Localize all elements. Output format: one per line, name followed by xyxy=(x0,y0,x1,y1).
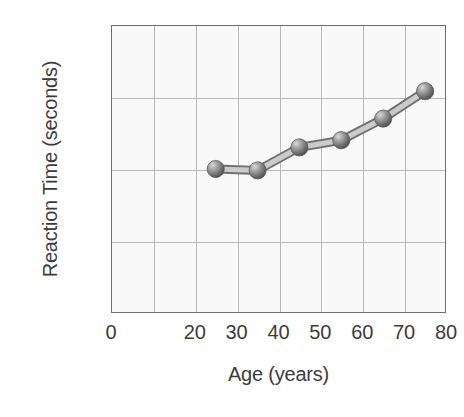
gridline-vertical xyxy=(363,26,364,312)
gridline-vertical xyxy=(196,26,197,312)
gridline-vertical xyxy=(280,26,281,312)
gridline-vertical xyxy=(238,26,239,312)
x-axis-tick-label: 20 xyxy=(175,322,215,342)
x-axis-tick-label: 40 xyxy=(259,322,299,342)
x-axis-tick-label: 70 xyxy=(384,322,424,342)
x-axis-title: Age (years) xyxy=(111,363,446,386)
reaction-time-line-chart: 00.51.01.52.0 020304050607080 Reaction T… xyxy=(0,0,464,417)
x-axis-tick-label: 30 xyxy=(217,322,257,342)
y-axis-title: Reaction Time (seconds) xyxy=(39,25,65,313)
x-axis-tick-label: 0 xyxy=(91,322,131,342)
gridline-vertical xyxy=(405,26,406,312)
gridline-horizontal xyxy=(112,242,445,243)
x-axis-tick-label: 80 xyxy=(426,322,464,342)
gridline-horizontal xyxy=(112,98,445,99)
x-axis-tick-label: 50 xyxy=(300,322,340,342)
gridline-horizontal xyxy=(112,170,445,171)
gridline-vertical xyxy=(321,26,322,312)
gridline-vertical xyxy=(154,26,155,312)
x-axis-tick-label: 60 xyxy=(342,322,382,342)
plot-area xyxy=(111,25,446,313)
